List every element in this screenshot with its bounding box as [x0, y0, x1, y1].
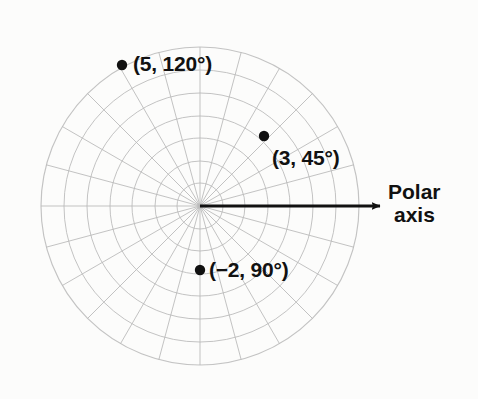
grid-spoke — [200, 206, 354, 247]
polar-diagram: (5, 120°) (3, 45°) (−2, 90°) Polar axis — [0, 0, 478, 399]
grid-spoke — [88, 206, 200, 318]
polar-axis-label: Polar axis — [388, 181, 441, 226]
point-label-5-120: (5, 120°) — [133, 52, 212, 76]
data-point-marker — [195, 265, 205, 275]
polar-axis-label-line1: Polar — [388, 181, 441, 204]
data-point-marker — [117, 60, 127, 70]
grid-spoke — [159, 206, 200, 360]
grid-spoke — [88, 94, 200, 206]
grid-spoke — [200, 206, 241, 360]
polar-axis-label-line2: axis — [388, 204, 441, 227]
data-point-markers — [117, 60, 269, 275]
point-label-neg2-90: (−2, 90°) — [209, 258, 289, 282]
grid-spoke — [200, 165, 354, 206]
grid-spoke — [46, 165, 200, 206]
point-label-3-45: (3, 45°) — [272, 146, 340, 170]
grid-spoke — [46, 206, 200, 247]
data-point-marker — [259, 131, 269, 141]
